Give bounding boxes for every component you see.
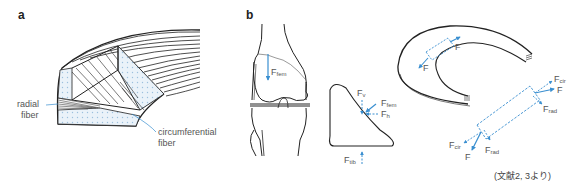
femoral-force-label: Ffem [271, 67, 287, 79]
meniscus-f-bottom-label: F [423, 63, 429, 73]
horizontal-force-label: Fh [381, 109, 390, 121]
circumferential-fiber-label-line1: circumferential [158, 127, 217, 137]
rad-bottom-label: Frad [485, 145, 499, 157]
vertical-force-label: Fv [357, 88, 366, 100]
f-bottom-label: F [465, 152, 471, 162]
radial-fiber-label-line1: radial [17, 99, 39, 109]
radial-fiber-label-line2: fiber [21, 110, 39, 120]
f-top-label: F [557, 85, 563, 95]
meniscus-section-illustration [58, 30, 201, 126]
diagram-canvas [0, 0, 578, 187]
f-force-top-arrow [535, 89, 554, 93]
meniscus-f-top-label: F [455, 42, 461, 52]
knee-joint-illustration [250, 24, 310, 156]
rad-force-top-arrow [533, 96, 542, 104]
femoral-wedge-force-arrow [366, 104, 376, 112]
rad-top-label: Frad [543, 104, 557, 116]
radial-leader-line [46, 104, 58, 105]
tibial-force-label: Ftib [344, 155, 356, 167]
meniscus-c-shape-illustration [398, 26, 532, 106]
circumferential-fiber-label-line2: fiber [158, 138, 176, 148]
citation: (文献2, 3より) [494, 169, 551, 182]
cir-bottom-label: Fcir [449, 140, 461, 152]
meniscus-element-large [464, 81, 554, 150]
